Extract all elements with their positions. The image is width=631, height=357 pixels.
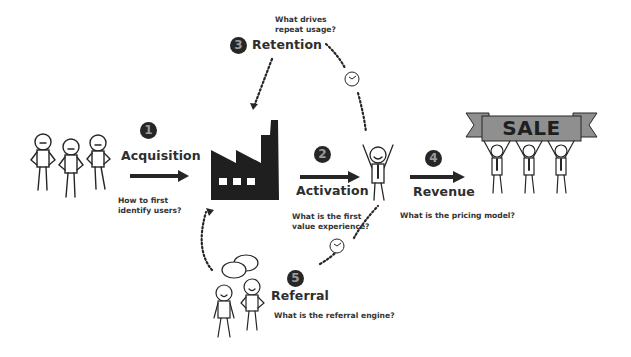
retention-loop-path bbox=[255, 44, 366, 132]
factory-icon bbox=[211, 120, 279, 200]
diagram-illustrations bbox=[0, 0, 631, 357]
stage-4-badge: 4 bbox=[425, 150, 442, 167]
stage-2-title: Activation bbox=[296, 183, 369, 198]
banner-holding-users-icon bbox=[484, 141, 574, 193]
stage-3-title: Retention bbox=[252, 37, 322, 52]
stage-1-title: Acquisition bbox=[121, 148, 201, 163]
retention-arrowhead bbox=[250, 103, 258, 110]
stage-5-title: Referral bbox=[271, 288, 329, 303]
stage-2-question-line-2: value experience? bbox=[292, 222, 369, 232]
stage-5-question: What is the referral engine? bbox=[274, 311, 395, 321]
stage-5-question-line-1: What is the referral engine? bbox=[274, 311, 395, 321]
stage-3-question-line-1: What drives bbox=[275, 15, 336, 25]
referral-arrowhead bbox=[206, 208, 214, 216]
stage-1-question: How to first identify users? bbox=[118, 196, 181, 216]
stage-2-question-line-1: What is the first bbox=[292, 212, 369, 222]
retention-clock-icon bbox=[345, 72, 359, 86]
stage-4-title: Revenue bbox=[413, 184, 475, 199]
stage-1-question-line-2: identify users? bbox=[118, 206, 181, 216]
referral-clock-icon bbox=[330, 239, 344, 253]
stage-1-question-line-1: How to first bbox=[118, 196, 181, 206]
stage-2-badge: 2 bbox=[314, 146, 331, 163]
stage-2-question: What is the first value experience? bbox=[292, 212, 369, 232]
users-group-icon bbox=[31, 134, 110, 197]
stage-4-question: What is the pricing model? bbox=[400, 211, 515, 221]
stage-4-question-line-1: What is the pricing model? bbox=[400, 211, 515, 221]
stage-3-question: What drives repeat usage? bbox=[275, 15, 336, 35]
banner-text: SALE bbox=[482, 116, 581, 141]
talking-users-icon bbox=[214, 255, 264, 337]
stage-3-badge: 3 bbox=[230, 37, 247, 54]
stage-1-badge: 1 bbox=[140, 122, 157, 139]
stage-3-question-line-2: repeat usage? bbox=[275, 25, 336, 35]
stage-5-badge: 5 bbox=[287, 270, 304, 287]
